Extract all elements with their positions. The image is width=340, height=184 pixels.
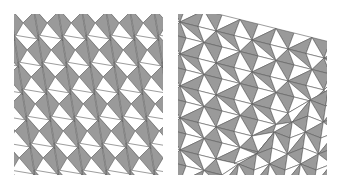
left-pattern-panel: [14, 14, 163, 175]
right-pattern-panel: [178, 14, 327, 175]
right-triangle-mesh: [178, 14, 327, 175]
left-triangle-tiling: [14, 14, 163, 175]
